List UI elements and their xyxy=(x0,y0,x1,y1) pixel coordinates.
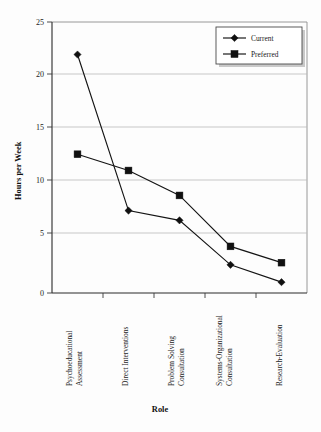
y-axis-title: Hours per Week xyxy=(14,141,23,200)
chart-figure: 0 5 10 15 20 25 Hours per Week Role Psyc… xyxy=(0,0,321,432)
category-label-0-line1: Psychoeducational xyxy=(65,331,74,386)
category-label-2: Problem Solving Consultation xyxy=(167,336,186,386)
category-label-4: Research-Evaluation xyxy=(275,324,284,386)
ytick-label-0: 0 xyxy=(40,289,44,298)
data-point-preferred-0 xyxy=(74,151,81,158)
series-preferred xyxy=(74,151,285,266)
data-point-current-1 xyxy=(125,207,132,214)
data-point-preferred-4 xyxy=(278,259,285,266)
category-label-3: Systems-Organizational Consultation xyxy=(215,315,234,386)
data-point-preferred-1 xyxy=(125,167,132,174)
y-axis-tick-labels: 0 5 10 15 20 25 xyxy=(36,18,44,298)
legend-label-preferred: Preferred xyxy=(251,50,279,59)
series-line-current xyxy=(78,55,282,283)
data-point-current-4 xyxy=(278,279,285,286)
line-chart-svg: 0 5 10 15 20 25 Hours per Week Role Psyc… xyxy=(0,0,321,432)
category-label-3-line1: Systems-Organizational xyxy=(215,315,224,386)
data-point-preferred-3 xyxy=(227,243,234,250)
x-axis-category-labels: Psychoeducational Assessment Direct Inte… xyxy=(65,315,284,386)
data-point-preferred-2 xyxy=(176,192,183,199)
legend-entry-preferred[interactable]: Preferred xyxy=(223,50,279,59)
ytick-label-25: 25 xyxy=(36,18,44,27)
category-label-0-line2: Assessment xyxy=(75,350,84,386)
data-series-layer xyxy=(74,51,285,286)
category-label-1: Direct Interventions xyxy=(121,327,130,386)
category-label-4-line1: Research-Evaluation xyxy=(275,324,284,386)
ytick-label-15: 15 xyxy=(36,123,44,132)
category-label-2-line2: Consultation xyxy=(177,348,186,386)
category-label-3-line2: Consultation xyxy=(225,348,234,386)
data-point-current-0 xyxy=(74,51,81,58)
y-axis-ticks xyxy=(47,22,52,293)
ytick-label-10: 10 xyxy=(36,176,44,185)
category-label-1-line1: Direct Interventions xyxy=(121,327,130,386)
legend-label-current: Current xyxy=(251,34,275,43)
x-axis-title: Role xyxy=(152,405,169,414)
ytick-label-20: 20 xyxy=(36,70,44,79)
category-label-2-line1: Problem Solving xyxy=(167,336,176,386)
gridlines xyxy=(52,74,307,233)
category-label-0: Psychoeducational Assessment xyxy=(65,331,84,386)
series-line-preferred xyxy=(78,154,282,262)
x-axis-ticks xyxy=(103,293,256,298)
legend-marker-square xyxy=(231,51,238,58)
series-current xyxy=(74,51,285,286)
ytick-label-5: 5 xyxy=(40,229,44,238)
chart-legend[interactable]: Current Preferred xyxy=(216,27,305,67)
